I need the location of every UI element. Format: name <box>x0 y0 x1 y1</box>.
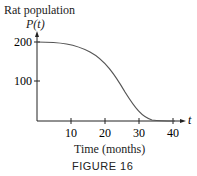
svg-text:30: 30 <box>133 126 145 140</box>
svg-text:40: 40 <box>167 126 179 140</box>
figure-caption: FIGURE 16 <box>72 160 133 172</box>
x-axis-label: Time (months) <box>74 142 145 157</box>
y-axis-arrow-icon <box>35 31 39 37</box>
svg-text:100: 100 <box>14 74 32 88</box>
svg-text:10: 10 <box>65 126 77 140</box>
svg-text:200: 200 <box>14 35 32 49</box>
x-axis-arrow-icon <box>180 119 186 123</box>
svg-text:t: t <box>188 113 192 127</box>
population-curve <box>37 42 175 121</box>
svg-text:20: 20 <box>99 126 111 140</box>
